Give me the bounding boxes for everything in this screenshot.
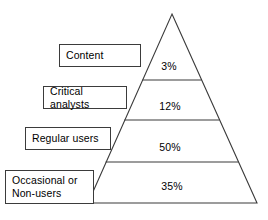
tier-percent-regular-users: 50% bbox=[159, 141, 180, 153]
tier-label-box-critical-analysts: Critical analysts bbox=[43, 86, 127, 109]
tier-label-text-occasional-non-users: Occasional or Non-users bbox=[12, 174, 78, 200]
tier-label-text-content: Content bbox=[66, 49, 103, 62]
tier-percent-critical-analysts: 12% bbox=[159, 100, 180, 112]
tier-label-box-occasional-non-users: Occasional or Non-users bbox=[5, 170, 94, 204]
tier-percent-occasional-non-users: 35% bbox=[161, 180, 182, 192]
tier-label-text-critical-analysts: Critical analysts bbox=[50, 85, 120, 111]
tier-label-box-regular-users: Regular users bbox=[25, 127, 111, 150]
tier-label-box-content: Content bbox=[59, 44, 141, 67]
tier-label-text-regular-users: Regular users bbox=[32, 132, 99, 145]
pyramid-diagram: 3% 12% 50% 35% Content Critical analysts… bbox=[0, 0, 268, 220]
tier-percent-content: 3% bbox=[161, 60, 176, 72]
